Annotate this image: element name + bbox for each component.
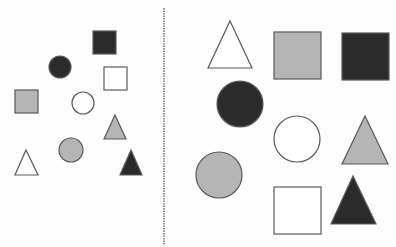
diagram-canvas: Shape grouping comparison [0,0,396,247]
dark-circle-shape [217,81,263,127]
dark-square-shape [342,33,389,80]
gray-circle-shape [196,152,242,198]
dark-triangle-shape [331,176,376,224]
white-square-shape [274,187,321,234]
white-circle-shape [274,116,320,162]
white-triangle-shape [208,21,252,68]
dark-circle-shape [49,56,71,78]
white-circle-shape [72,92,94,114]
shapes-diagram [0,0,396,247]
left-panel [15,31,142,175]
gray-square-shape [274,32,321,79]
dark-square-shape [93,31,116,54]
gray-circle-shape [59,138,83,162]
white-square-shape [104,67,127,90]
right-panel [196,21,389,234]
gray-square-shape [15,90,38,113]
gray-triangle-shape [104,115,126,139]
gray-triangle-shape [342,116,388,164]
dark-triangle-shape [120,150,142,175]
white-triangle-shape [15,150,38,175]
